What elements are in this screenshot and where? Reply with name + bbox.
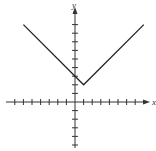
y-axis-label: y [71,0,76,10]
x-axis-label: x [151,97,156,107]
graph: x y [0,0,156,151]
plot-area: x y [0,0,156,151]
absolute-value-curve [23,25,143,85]
